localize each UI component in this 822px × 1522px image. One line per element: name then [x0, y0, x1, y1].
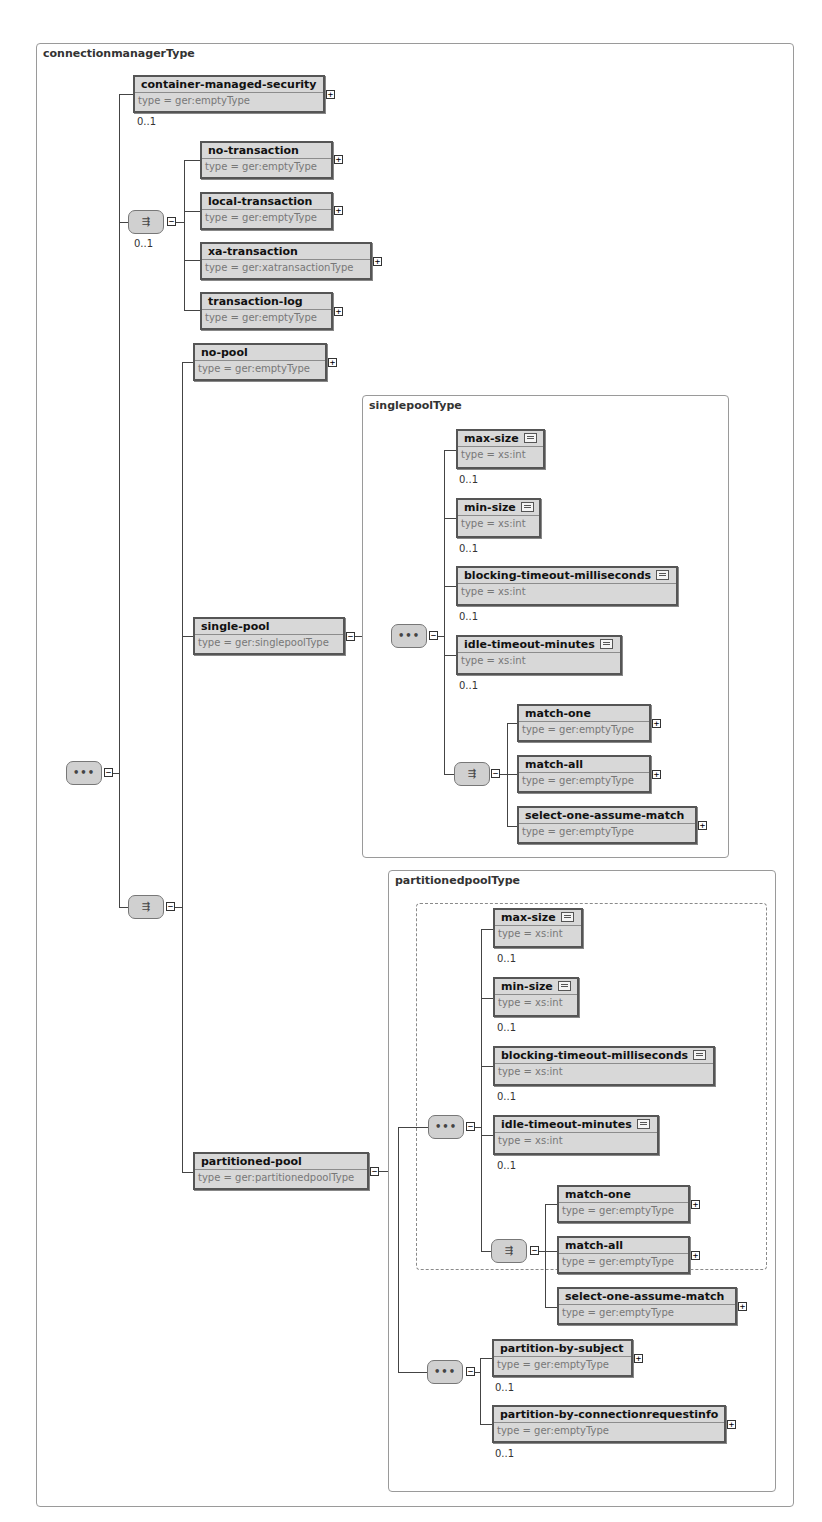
element-blocking-timeout-milliseconds[interactable]: blocking-timeout-milliseconds type = xs:… — [456, 566, 678, 606]
pool-choice-compositor[interactable]: ⇶ — [128, 895, 164, 919]
expand-toggle[interactable]: + — [328, 358, 337, 367]
occurrence-label: 0..1 — [134, 238, 153, 249]
element-type: type = ger:emptyType — [494, 1357, 631, 1372]
occurrence-label: 0..1 — [459, 680, 478, 691]
element-type: type = ger:emptyType — [135, 93, 323, 108]
occurrence-label: 0..1 — [497, 1160, 516, 1171]
partitioned-match-choice-compositor[interactable]: ⇶ — [491, 1239, 527, 1263]
collapse-toggle[interactable]: − — [370, 1167, 379, 1176]
simple-type-icon — [561, 912, 574, 922]
element-local-transaction[interactable]: local-transaction type = ger:emptyType — [200, 192, 333, 230]
collapse-toggle[interactable]: − — [466, 1122, 475, 1131]
connector — [481, 929, 482, 1251]
element-min-size[interactable]: min-size type = xs:int — [493, 977, 579, 1017]
element-transaction-log[interactable]: transaction-log type = ger:emptyType — [200, 292, 333, 330]
element-max-size[interactable]: max-size type = xs:int — [493, 908, 583, 948]
element-match-one[interactable]: match-one type = ger:emptyType — [557, 1185, 690, 1223]
element-match-all[interactable]: match-all type = ger:emptyType — [557, 1236, 690, 1274]
element-min-size[interactable]: min-size type = xs:int — [456, 498, 541, 538]
choice-icon: ⇶ — [468, 768, 476, 779]
connector — [444, 450, 445, 774]
expand-toggle[interactable]: + — [334, 206, 343, 215]
connector — [507, 826, 517, 827]
element-idle-timeout-minutes[interactable]: idle-timeout-minutes type = xs:int — [493, 1115, 659, 1155]
connector — [480, 1358, 492, 1359]
expand-toggle[interactable]: + — [691, 1200, 700, 1209]
expand-toggle[interactable]: + — [652, 770, 661, 779]
element-name: min-size — [458, 500, 539, 516]
occurrence-label: 0..1 — [495, 1448, 514, 1459]
expand-toggle[interactable]: + — [334, 155, 343, 164]
expand-toggle[interactable]: + — [738, 1302, 747, 1311]
element-type: type = ger:emptyType — [202, 210, 331, 225]
collapse-toggle[interactable]: − — [466, 1367, 475, 1376]
element-partitioned-pool[interactable]: partitioned-pool type = ger:partitionedp… — [193, 1152, 369, 1190]
expand-toggle[interactable]: + — [691, 1251, 700, 1260]
element-name: max-size — [495, 910, 581, 926]
element-no-transaction[interactable]: no-transaction type = ger:emptyType — [200, 141, 333, 179]
element-select-one-assume-match[interactable]: select-one-assume-match type = ger:empty… — [517, 806, 697, 844]
occurrence-label: 0..1 — [137, 116, 156, 127]
element-name: container-managed-security — [135, 77, 323, 93]
element-type: type = ger:emptyType — [559, 1254, 688, 1269]
element-blocking-timeout-milliseconds[interactable]: blocking-timeout-milliseconds type = xs:… — [493, 1046, 715, 1086]
element-type: type = ger:emptyType — [195, 361, 325, 376]
element-xa-transaction[interactable]: xa-transaction type = ger:xatransactionT… — [200, 242, 372, 280]
element-idle-timeout-minutes[interactable]: idle-timeout-minutes type = xs:int — [456, 635, 622, 675]
element-name: match-all — [519, 757, 649, 773]
element-partition-by-subject[interactable]: partition-by-subject type = ger:emptyTyp… — [492, 1339, 633, 1377]
connector — [182, 1172, 193, 1173]
root-sequence-compositor[interactable]: ••• — [66, 761, 102, 785]
expand-toggle[interactable]: + — [326, 90, 335, 99]
occurrence-label: 0..1 — [497, 1091, 516, 1102]
element-select-one-assume-match[interactable]: select-one-assume-match type = ger:empty… — [557, 1287, 737, 1325]
connector — [184, 211, 200, 212]
collapse-toggle[interactable]: − — [104, 768, 113, 777]
element-single-pool[interactable]: single-pool type = ger:singlepoolType — [193, 617, 345, 655]
element-max-size[interactable]: max-size type = xs:int — [456, 429, 545, 469]
collapse-toggle[interactable]: − — [346, 632, 355, 641]
element-match-one[interactable]: match-one type = ger:emptyType — [517, 704, 651, 742]
connector — [545, 1251, 557, 1252]
collapse-toggle[interactable]: − — [166, 902, 175, 911]
connector — [507, 723, 517, 724]
simple-type-icon — [600, 639, 613, 649]
singlepool-match-choice-compositor[interactable]: ⇶ — [454, 762, 490, 786]
element-type: type = xs:int — [495, 995, 577, 1010]
connector — [176, 222, 184, 223]
connector — [481, 1251, 491, 1252]
expand-toggle[interactable]: + — [698, 821, 707, 830]
connector — [184, 160, 200, 161]
connector — [444, 518, 456, 519]
connector — [480, 1424, 492, 1425]
element-type: type = xs:int — [495, 1133, 657, 1148]
expand-toggle[interactable]: + — [727, 1420, 736, 1429]
element-name: select-one-assume-match — [519, 808, 695, 824]
element-match-all[interactable]: match-all type = ger:emptyType — [517, 755, 651, 793]
connector — [398, 1372, 428, 1373]
expand-toggle[interactable]: + — [652, 719, 661, 728]
collapse-toggle[interactable]: − — [491, 769, 500, 778]
expand-toggle[interactable]: + — [334, 307, 343, 316]
element-partition-by-connectionrequestinfo[interactable]: partition-by-connectionrequestinfo type … — [492, 1405, 726, 1443]
choice-icon: ⇶ — [505, 1245, 513, 1256]
element-type: type = ger:emptyType — [519, 824, 695, 839]
sequence-icon: ••• — [398, 630, 420, 641]
element-container-managed-security[interactable]: container-managed-security type = ger:em… — [133, 75, 325, 113]
partitioned-sequence-compositor[interactable]: ••• — [428, 1115, 464, 1139]
sequence-icon: ••• — [435, 1121, 457, 1132]
expand-toggle[interactable]: + — [373, 257, 382, 266]
connector — [398, 1127, 428, 1128]
singlepool-sequence-compositor[interactable]: ••• — [391, 624, 427, 648]
expand-toggle[interactable]: + — [634, 1354, 643, 1363]
connector — [481, 998, 493, 999]
collapse-toggle[interactable]: − — [167, 217, 176, 226]
frame-title: connectionmanagerType — [43, 47, 195, 60]
connector — [444, 586, 456, 587]
collapse-toggle[interactable]: − — [530, 1246, 539, 1255]
partition-by-sequence-compositor[interactable]: ••• — [427, 1360, 463, 1384]
connector — [182, 362, 193, 363]
element-no-pool[interactable]: no-pool type = ger:emptyType — [193, 343, 327, 381]
transaction-choice-compositor[interactable]: ⇶ — [128, 210, 164, 234]
collapse-toggle[interactable]: − — [429, 631, 438, 640]
